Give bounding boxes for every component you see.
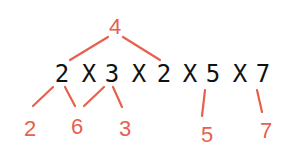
expr-token: 7 xyxy=(256,60,270,88)
branch-2-to-6 xyxy=(65,87,75,106)
factor-tree-diagram: 4 2 X 3 X 2 X 5 X 7 2 6 3 5 7 xyxy=(0,0,292,154)
expr-token: X xyxy=(233,60,248,88)
expression-row: 2 X 3 X 2 X 5 X 7 xyxy=(55,60,270,88)
branch-3-to-3 xyxy=(113,87,122,107)
bottom-label: 7 xyxy=(260,118,272,143)
expr-token: 2 xyxy=(157,60,171,88)
bottom-label: 2 xyxy=(24,116,36,141)
top-branch-right xyxy=(123,37,160,60)
expr-token: X xyxy=(183,60,198,88)
top-group-label: 4 xyxy=(109,14,121,39)
expr-token: 3 xyxy=(105,60,119,88)
bottom-label: 6 xyxy=(71,114,83,139)
bottom-label: 5 xyxy=(201,122,213,147)
expr-token: X xyxy=(82,60,97,88)
bottom-label: 3 xyxy=(119,116,131,141)
expr-token: 5 xyxy=(206,60,220,88)
top-branch-left xyxy=(70,37,108,60)
branch-5-to-5 xyxy=(202,90,205,116)
branch-2-to-2 xyxy=(33,87,53,106)
expr-token: X xyxy=(132,60,147,88)
branch-7-to-7 xyxy=(257,90,262,112)
branch-3-to-6 xyxy=(84,87,104,106)
expr-token: 2 xyxy=(55,60,69,88)
